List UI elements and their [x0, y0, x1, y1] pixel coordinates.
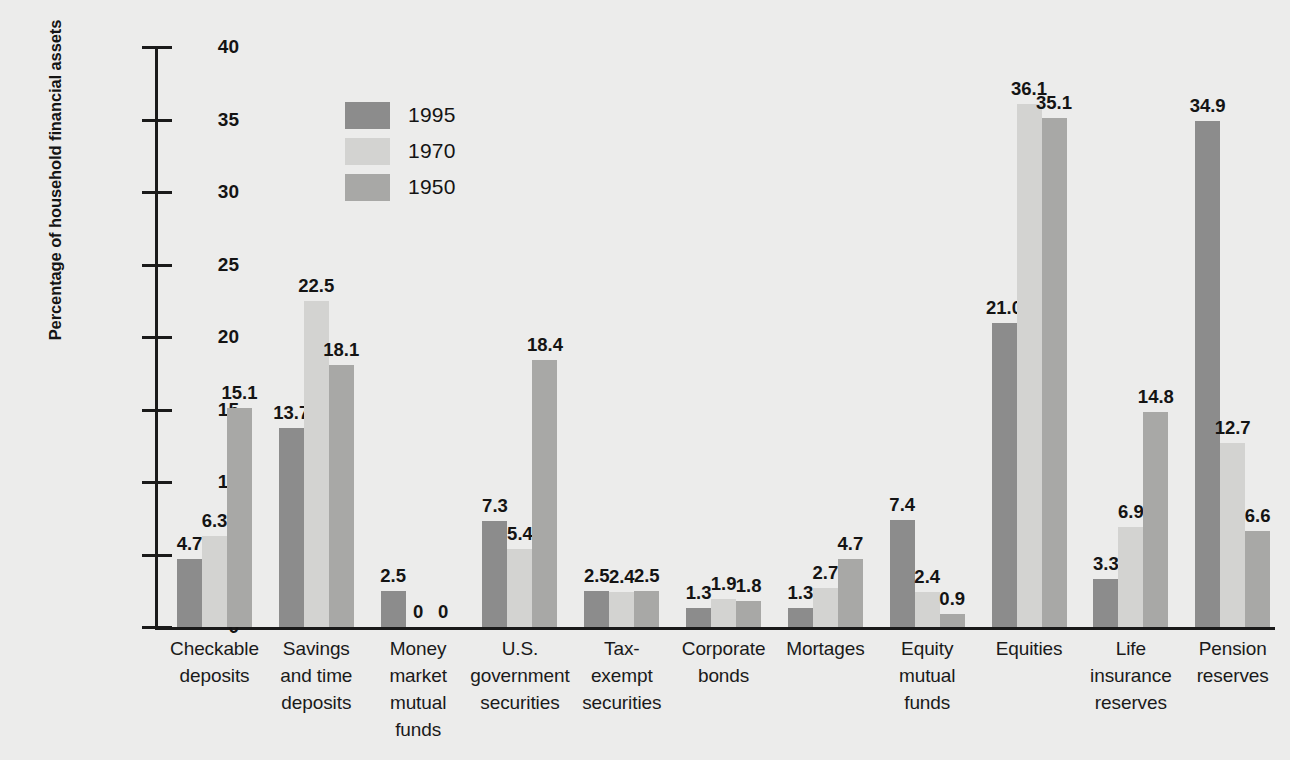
bar-rect[interactable] — [329, 365, 354, 627]
legend-swatch — [345, 102, 390, 129]
x-axis-label-line: reserves — [1051, 690, 1211, 717]
bar-value-label: 18.4 — [510, 334, 580, 356]
y-axis-title: Percentage of household financial assets — [0, 40, 110, 320]
y-tick-mark — [142, 119, 172, 122]
bar-item[interactable]: 2.5 — [584, 47, 609, 627]
x-axis-label-line: Pension — [1153, 636, 1290, 663]
bar-rect[interactable] — [227, 408, 252, 627]
legend-label: 1970 — [408, 139, 456, 163]
bar-item[interactable]: 3.3 — [1093, 47, 1118, 627]
legend: 199519701950 — [345, 97, 525, 205]
bar-rect[interactable] — [507, 549, 532, 627]
bar-rect[interactable] — [1042, 118, 1067, 627]
x-axis-label-line: reserves — [1153, 663, 1290, 690]
bar-group: 1.32.74.7 — [788, 47, 863, 627]
y-tick-mark — [142, 481, 172, 484]
bar-rect[interactable] — [177, 559, 202, 627]
bar-group: 21.036.135.1 — [992, 47, 1067, 627]
bar-item[interactable]: 34.9 — [1195, 47, 1220, 627]
bar-group: 3.36.914.8 — [1093, 47, 1168, 627]
bar-group: 4.76.315.1 — [177, 47, 252, 627]
bar-rect[interactable] — [992, 323, 1017, 628]
bar-rect[interactable] — [609, 592, 634, 627]
bar-rect[interactable] — [1195, 121, 1220, 627]
bar-item[interactable]: 15.1 — [227, 47, 252, 627]
x-axis-label-line: securities — [542, 690, 702, 717]
x-axis-label: Pensionreserves — [1153, 636, 1290, 690]
bar-rect[interactable] — [788, 608, 813, 627]
bar-item[interactable]: 0.9 — [940, 47, 965, 627]
bar-rect[interactable] — [813, 588, 838, 627]
y-tick-mark — [142, 46, 172, 49]
bar-item[interactable]: 2.4 — [915, 47, 940, 627]
y-tick-mark — [142, 264, 172, 267]
bar-rect[interactable] — [1017, 104, 1042, 627]
bar-rect[interactable] — [1118, 527, 1143, 627]
bar-rect[interactable] — [634, 591, 659, 627]
bar-rect[interactable] — [686, 608, 711, 627]
bar-item[interactable]: 21.0 — [992, 47, 1017, 627]
bar-item[interactable]: 7.4 — [890, 47, 915, 627]
bar-item[interactable]: 4.7 — [177, 47, 202, 627]
bar-rect[interactable] — [279, 428, 304, 627]
legend-swatch — [345, 138, 390, 165]
bar-item[interactable]: 13.7 — [279, 47, 304, 627]
x-axis-labels: CheckabledepositsSavingsand timedeposits… — [155, 636, 1275, 760]
bar-item[interactable]: 1.8 — [736, 47, 761, 627]
bar-rect[interactable] — [1245, 531, 1270, 627]
bar-item[interactable]: 35.1 — [1042, 47, 1067, 627]
bar-value-label: 0.9 — [917, 588, 987, 610]
bar-value-label: 35.1 — [1019, 92, 1089, 114]
x-axis-label-line: funds — [338, 717, 498, 744]
bar-value-label: 0 — [408, 601, 478, 623]
bar-rect[interactable] — [1220, 443, 1245, 627]
bar-rect[interactable] — [1143, 412, 1168, 627]
bar-item[interactable]: 12.7 — [1220, 47, 1245, 627]
bar-group: 1.31.91.8 — [686, 47, 761, 627]
chart-figure: Percentage of household financial assets… — [0, 0, 1290, 760]
bar-item[interactable]: 6.3 — [202, 47, 227, 627]
bar-rect[interactable] — [711, 599, 736, 627]
bar-item[interactable]: 2.5 — [634, 47, 659, 627]
bar-item[interactable]: 6.6 — [1245, 47, 1270, 627]
legend-item[interactable]: 1970 — [345, 133, 525, 169]
bar-value-label: 18.1 — [306, 339, 376, 361]
y-tick-mark — [142, 409, 172, 412]
y-tick-mark — [142, 191, 172, 194]
bar-item[interactable]: 22.5 — [304, 47, 329, 627]
bar-rect[interactable] — [532, 360, 557, 627]
y-tick-mark — [142, 336, 172, 339]
bar-item[interactable]: 4.7 — [838, 47, 863, 627]
bar-item[interactable]: 1.3 — [788, 47, 813, 627]
legend-item[interactable]: 1995 — [345, 97, 525, 133]
bar-value-label: 15.1 — [205, 382, 275, 404]
y-tick-mark — [142, 626, 172, 629]
x-axis-label-line: mutual — [847, 663, 1007, 690]
bar-item[interactable]: 6.9 — [1118, 47, 1143, 627]
bar-rect[interactable] — [736, 601, 761, 627]
bar-rect[interactable] — [1093, 579, 1118, 627]
bar-value-label: 4.7 — [815, 533, 885, 555]
bar-group: 13.722.518.1 — [279, 47, 354, 627]
x-axis-line — [155, 627, 1275, 630]
bar-rect[interactable] — [202, 536, 227, 627]
x-axis-label-line: bonds — [644, 663, 804, 690]
legend-item[interactable]: 1950 — [345, 169, 525, 205]
legend-swatch — [345, 174, 390, 201]
bar-item[interactable]: 18.4 — [532, 47, 557, 627]
bar-group: 7.42.40.9 — [890, 47, 965, 627]
bar-group: 2.52.42.5 — [584, 47, 659, 627]
legend-label: 1950 — [408, 175, 456, 199]
bar-rect[interactable] — [838, 559, 863, 627]
bar-rect[interactable] — [940, 614, 965, 627]
bar-item[interactable]: 14.8 — [1143, 47, 1168, 627]
legend-label: 1995 — [408, 103, 456, 127]
x-axis-label-line: funds — [847, 690, 1007, 717]
y-axis-title-text: Percentage of household financial assets — [45, 20, 65, 341]
bar-item[interactable]: 1.9 — [711, 47, 736, 627]
bar-item[interactable]: 1.3 — [686, 47, 711, 627]
bar-value-label: 6.6 — [1223, 505, 1290, 527]
bar-item[interactable]: 2.4 — [609, 47, 634, 627]
bar-item[interactable]: 36.1 — [1017, 47, 1042, 627]
bar-rect[interactable] — [584, 591, 609, 627]
